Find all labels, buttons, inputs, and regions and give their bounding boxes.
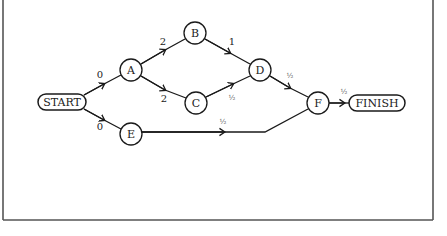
weight-a-c: 2 [161,93,167,104]
node-d-label: D [256,64,265,77]
node-a-label: A [126,64,136,77]
node-d: D [249,59,271,81]
node-c-label: C [192,97,200,110]
node-start-label: START [43,96,81,109]
node-e: E [120,123,142,145]
node-a: A [120,59,142,81]
weight-f-finish: ½ [341,88,348,96]
node-f-label: F [314,97,322,110]
node-c: C [185,92,207,114]
node-e-label: E [127,128,135,141]
node-start: START [38,94,86,110]
weight-e-f: ½ [220,118,227,126]
node-finish: FINISH [349,95,405,111]
network-diagram: START A B C D E F FINISH 0 0 2 2 1 ½ ½ ½… [0,0,447,236]
node-b: B [184,22,206,44]
weight-d-f: ½ [287,72,294,80]
weight-c-d: ½ [229,94,236,102]
node-f: F [307,92,329,114]
weight-start-e: 0 [97,121,103,132]
node-b-label: B [191,27,199,40]
weight-start-a: 0 [97,69,103,80]
node-finish-label: FINISH [355,97,398,110]
weight-a-b: 2 [160,36,166,47]
weight-b-d: 1 [229,36,235,47]
